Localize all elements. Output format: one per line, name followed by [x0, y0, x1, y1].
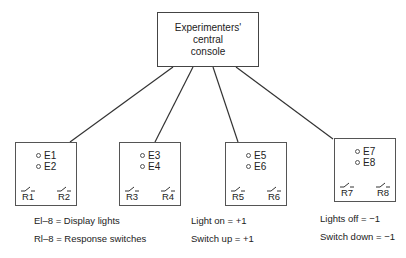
subject-station-4: E7 E8 R7 R8 — [334, 138, 396, 202]
response-switch-r5: R5 — [230, 185, 246, 202]
display-light-e1: E1 — [36, 150, 56, 161]
switch-icon — [160, 185, 176, 192]
light-icon — [140, 164, 145, 169]
light-icon — [355, 149, 360, 154]
display-light-e8: E8 — [355, 157, 375, 168]
display-light-e4: E4 — [140, 161, 160, 172]
switch-icon — [20, 185, 36, 192]
response-switch-r4: R4 — [160, 185, 176, 202]
legend-response-switches: Rl–8 = Response switches — [34, 233, 146, 245]
legend-lights-off: Lights off = −1 — [320, 213, 395, 225]
console-label-line1: Experimenters' — [175, 22, 241, 34]
console-label-line3: console — [191, 46, 225, 58]
display-light-e2: E2 — [36, 161, 56, 172]
switch-icon — [266, 185, 282, 192]
subject-station-1: E1 E2 R1 R2 — [15, 142, 77, 206]
response-switch-r3: R3 — [124, 185, 140, 202]
switch-icon — [124, 185, 140, 192]
light-icon — [140, 153, 145, 158]
response-switch-r2: R2 — [56, 185, 72, 202]
central-console: Experimenters' central console — [157, 12, 259, 67]
switch-icon — [375, 181, 391, 188]
light-icon — [36, 164, 41, 169]
response-switch-r6: R6 — [266, 185, 282, 202]
switch-icon — [339, 181, 355, 188]
display-light-e5: E5 — [246, 150, 266, 161]
console-label-line2: central — [193, 34, 223, 46]
legend-negative-values: Lights off = −1 Switch down = −1 — [320, 213, 395, 243]
switch-icon — [56, 185, 72, 192]
display-light-e7: E7 — [355, 146, 375, 157]
light-icon — [355, 160, 360, 165]
response-switch-r8: R8 — [375, 181, 391, 198]
subject-station-3: E5 E6 R5 R6 — [225, 142, 287, 206]
legend-definitions: El–8 = Display lights Rl–8 = Response sw… — [34, 215, 146, 245]
response-switch-r1: R1 — [20, 185, 36, 202]
switch-icon — [230, 185, 246, 192]
legend-positive-values: Light on = +1 Switch up = +1 — [191, 215, 254, 245]
light-icon — [246, 153, 251, 158]
light-icon — [246, 164, 251, 169]
legend-switch-up: Switch up = +1 — [191, 233, 254, 245]
display-light-e6: E6 — [246, 161, 266, 172]
legend-switch-down: Switch down = −1 — [320, 231, 395, 243]
subject-station-2: E3 E4 R3 R4 — [119, 142, 181, 206]
legend-light-on: Light on = +1 — [191, 215, 254, 227]
light-icon — [36, 153, 41, 158]
display-light-e3: E3 — [140, 150, 160, 161]
legend-display-lights: El–8 = Display lights — [34, 215, 146, 227]
response-switch-r7: R7 — [339, 181, 355, 198]
